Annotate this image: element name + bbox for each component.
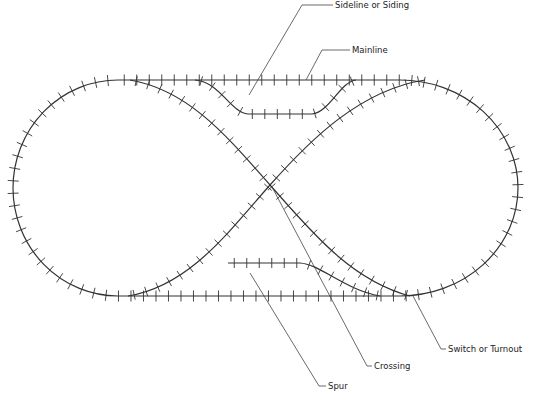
railroad-ties: [8, 75, 524, 302]
label-crossing: Crossing: [374, 361, 410, 371]
leader-switch: [413, 296, 446, 349]
track-diagram: [0, 0, 536, 395]
spur-track: [228, 263, 380, 296]
leader-crossing: [272, 187, 372, 366]
label-siding: Sideline or Siding: [335, 0, 409, 10]
leader-spur: [250, 273, 326, 386]
label-switch: Switch or Turnout: [448, 344, 522, 354]
label-mainline: Mainline: [352, 45, 388, 55]
leader-mainline: [306, 50, 350, 80]
label-spur: Spur: [328, 381, 348, 391]
